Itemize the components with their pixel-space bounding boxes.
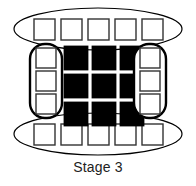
right-capsule-group <box>134 44 166 118</box>
center-cell-2 <box>92 46 116 70</box>
right-cell-1 <box>140 48 160 68</box>
top-ellipse-group <box>14 8 182 50</box>
left-cell-column <box>36 48 56 114</box>
bottom-cell-5 <box>142 124 163 145</box>
center-cell-8 <box>92 102 116 126</box>
left-capsule-group <box>30 44 62 118</box>
right-cell-3 <box>140 94 160 114</box>
right-cell-2 <box>140 71 160 91</box>
right-cell-column <box>140 48 160 114</box>
center-grid-group <box>64 46 144 126</box>
stage-diagram-figure: Stage 3 <box>0 0 196 186</box>
top-cell-4 <box>115 19 136 40</box>
top-cell-5 <box>142 19 163 40</box>
bottom-cell-row <box>34 124 163 145</box>
center-cell-7 <box>64 102 88 126</box>
center-cell-1 <box>64 46 88 70</box>
left-cell-2 <box>36 71 56 91</box>
top-cell-row <box>34 19 163 40</box>
bottom-cell-3 <box>88 124 109 145</box>
bottom-cell-2 <box>61 124 82 145</box>
top-cell-1 <box>34 19 55 40</box>
bottom-cell-4 <box>115 124 136 145</box>
center-cell-5 <box>92 74 116 98</box>
left-cell-3 <box>36 94 56 114</box>
left-cell-1 <box>36 48 56 68</box>
figure-caption: Stage 3 <box>0 158 196 176</box>
bottom-cell-1 <box>34 124 55 145</box>
top-cell-2 <box>61 19 82 40</box>
top-cell-3 <box>88 19 109 40</box>
center-cell-4 <box>64 74 88 98</box>
